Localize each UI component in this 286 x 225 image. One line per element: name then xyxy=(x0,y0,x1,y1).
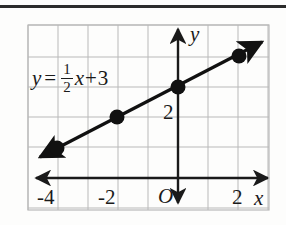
fraction-numerator: 1 xyxy=(61,62,73,77)
y-tick-label-2: 2 xyxy=(163,100,174,125)
equation-variable-x: x xyxy=(75,66,84,91)
point-0-3 xyxy=(171,80,186,95)
equation-constant: 3 xyxy=(98,66,109,91)
x-tick-label-neg4: -4 xyxy=(37,185,55,210)
equation-equals-sign: = xyxy=(44,66,56,91)
math-figure: y = 1 2 x + 3 -4 -2 O 2 2 x y xyxy=(0,0,286,225)
origin-label: O xyxy=(158,184,173,209)
equation-lhs: y xyxy=(32,66,41,91)
x-tick-label-2: 2 xyxy=(232,185,243,210)
equation-plus-sign: + xyxy=(85,66,97,91)
point-neg2-2 xyxy=(110,110,125,125)
y-axis-name: y xyxy=(190,22,199,47)
point-neg4-1 xyxy=(50,141,65,156)
point-2-4 xyxy=(232,49,247,64)
x-tick-label-neg2: -2 xyxy=(98,185,116,210)
equation-annotation: y = 1 2 x + 3 xyxy=(32,62,108,95)
fraction-denominator: 2 xyxy=(61,80,73,95)
equation-fraction-one-half: 1 2 xyxy=(61,62,73,95)
x-axis-name: x xyxy=(254,186,263,211)
